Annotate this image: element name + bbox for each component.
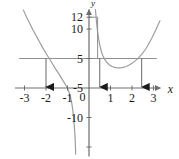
y-tick-label-10: 10 <box>71 22 83 36</box>
x-tick-label-2: 2 <box>129 91 135 105</box>
x-tick-label--3: -3 <box>20 91 30 105</box>
x-axis-label: x <box>167 82 174 96</box>
x-tick-label-1: 1 <box>108 91 114 105</box>
x-tick-label--1: -1 <box>63 91 73 105</box>
y-tick-label-0: -5 <box>73 81 83 95</box>
y-tick-label-5: 5 <box>77 52 83 66</box>
graph-canvas: -3-2-1012312105-5-10xy <box>0 0 179 159</box>
curve-left-branch <box>23 10 75 154</box>
x-tick-label-3: 3 <box>151 91 157 105</box>
y-tick-label--5: -10 <box>67 111 83 125</box>
y-axis-label: y <box>90 0 95 8</box>
coordinate-graph-figure: -3-2-1012312105-5-10xy <box>0 0 179 159</box>
x-tick-label--2: -2 <box>41 91 51 105</box>
curve-right-branch <box>95 10 160 68</box>
